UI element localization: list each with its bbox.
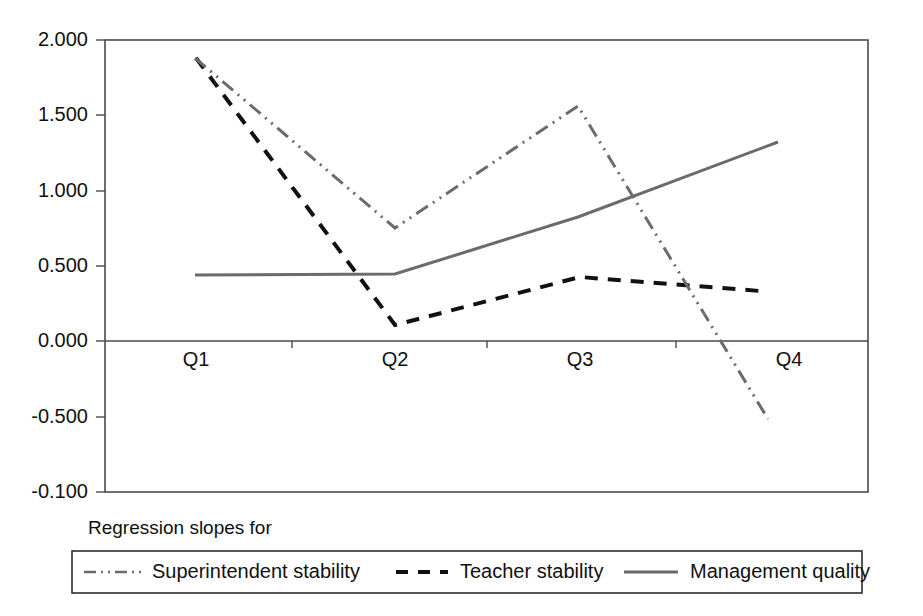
legend-entry-management-quality[interactable]: Management quality [624,560,870,582]
x-axis-ticks [292,341,676,348]
ytick-label-4: 0.000 [38,329,88,351]
series-line-teacher-stability [196,58,760,325]
plot-frame [105,40,868,492]
ytick-label-6: -0.100 [31,480,88,502]
y-axis-ticks [96,40,105,492]
ytick-label-3: 0.500 [38,254,88,276]
x-axis-tick-labels: Q1 Q2 Q3 Q4 [183,348,803,370]
legend-entry-teacher-stability[interactable]: Teacher stability [396,560,603,582]
y-axis-tick-labels: 2.000 1.500 1.000 0.500 0.000 -0.500 -0.… [31,28,88,502]
legend-title: Regression slopes for [88,517,272,538]
chart-figure: 2.000 1.500 1.000 0.500 0.000 -0.500 -0.… [0,0,923,616]
legend-entry-superintendent-stability[interactable]: Superintendent stability [84,560,360,582]
series-plot-area [195,58,778,419]
regression-slopes-line-chart: 2.000 1.500 1.000 0.500 0.000 -0.500 -0.… [0,0,923,616]
ytick-label-2: 1.000 [38,179,88,201]
xtick-label-q3: Q3 [567,348,594,370]
xtick-label-q2: Q2 [382,348,409,370]
legend-label-superintendent-stability: Superintendent stability [152,560,360,582]
ytick-label-5: -0.500 [31,405,88,427]
series-line-superintendent-stability [195,58,768,419]
xtick-label-q4: Q4 [776,348,803,370]
series-line-management-quality [195,142,778,275]
legend: Superintendent stability Teacher stabili… [72,551,870,593]
xtick-label-q1: Q1 [183,348,210,370]
ytick-label-1: 1.500 [38,103,88,125]
legend-label-management-quality: Management quality [690,560,870,582]
ytick-label-0: 2.000 [38,28,88,50]
legend-label-teacher-stability: Teacher stability [460,560,603,582]
